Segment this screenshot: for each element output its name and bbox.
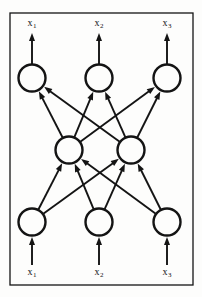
hidden-node-2: [118, 137, 145, 164]
input-arrow-3: [164, 237, 170, 265]
nodes-group: [19, 65, 181, 236]
edge-input2-hidden2: [105, 164, 125, 209]
input-label-2: x2: [95, 267, 104, 279]
input-label-1-subscript: 1: [33, 271, 37, 279]
input-label-3-subscript: 3: [168, 271, 172, 279]
input-node-3: [154, 209, 181, 236]
input-label-2-subscript: 2: [100, 271, 104, 279]
output-node-2: [86, 65, 113, 92]
edge-input1-hidden2: [43, 159, 119, 214]
input-label-3: x3: [163, 267, 172, 279]
neural-network-figure: [0, 0, 202, 297]
edge-input2-hidden1: [75, 164, 94, 209]
hidden-node-1: [56, 137, 83, 164]
output-label-1: x1: [28, 18, 37, 30]
input-arrow-1: [29, 237, 35, 265]
input-arrow-2: [96, 237, 102, 265]
output-node-1: [19, 65, 46, 92]
input-label-1: x1: [28, 267, 37, 279]
output-node-3: [154, 65, 181, 92]
output-label-2: x2: [95, 18, 104, 30]
output-arrow-2: [96, 33, 102, 64]
edge-hidden1-output2: [74, 92, 93, 137]
input-node-1: [19, 209, 46, 236]
output-arrow-3: [164, 33, 170, 64]
input-node-2: [86, 209, 113, 236]
output-arrow-1: [29, 33, 35, 64]
output-label-3-subscript: 3: [168, 22, 172, 30]
output-label-1-subscript: 1: [33, 22, 37, 30]
figure-canvas: x1x2x3x1x2x3: [0, 0, 202, 297]
output-label-2-subscript: 2: [100, 22, 104, 30]
output-label-3: x3: [163, 18, 172, 30]
edge-hidden2-output2: [105, 92, 125, 137]
